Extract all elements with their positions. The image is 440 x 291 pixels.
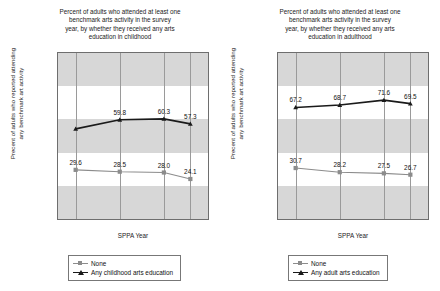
legend-item[interactable]: Any adult arts education (293, 268, 380, 277)
legend-item[interactable]: None (73, 259, 173, 268)
legend-label: Any childhood arts education (91, 269, 173, 276)
legend-triangle-icon (293, 268, 308, 277)
y-axis-title-line: Precent of adults who reported attending (229, 29, 237, 179)
legend: NoneAny adult arts education (288, 255, 388, 281)
title-line: year, by whether they received any arts (22, 25, 218, 33)
chart-panel-childhood: Percent of adults who attended at least … (0, 0, 220, 291)
data-label: 57.3 (184, 113, 196, 119)
series-line (76, 170, 191, 179)
data-label: 30.7 (289, 158, 301, 164)
chart-title: Percent of adults who attended at least … (242, 8, 438, 41)
data-label: 71.6 (378, 90, 390, 96)
chart-panel-adulthood: Percent of adults who attended at least … (220, 0, 440, 291)
title-line: benchmark arts activity in the survey (22, 16, 218, 24)
data-label: 59.8 (114, 109, 126, 115)
title-line: Percent of adults who attended at least … (22, 8, 218, 16)
data-label: 67.2 (289, 97, 301, 103)
title-line: education in childhood (22, 33, 218, 41)
figure-sheet: Percent of adults who attended at least … (0, 0, 440, 291)
data-point-marker (294, 166, 298, 170)
data-point-marker (188, 177, 192, 181)
data-point-marker (338, 170, 342, 174)
series-layer (58, 53, 208, 219)
legend-square-icon (293, 259, 308, 268)
data-label: 29.6 (69, 159, 81, 165)
title-line: education in adulthood (242, 33, 438, 41)
data-label: 26.7 (404, 164, 416, 170)
legend: NoneAny childhood arts education (68, 255, 181, 281)
legend-item[interactable]: None (293, 259, 380, 268)
title-line: benchmark arts activity in the survey (242, 16, 438, 24)
data-point-marker (118, 170, 122, 174)
chart-title: Percent of adults who attended at least … (22, 8, 218, 41)
y-axis-title: Precent of adults who reported attending… (9, 29, 24, 179)
data-label: 28.0 (158, 162, 170, 168)
legend-square-icon (73, 259, 88, 268)
data-point-marker (74, 168, 78, 172)
y-tick-mark (277, 219, 278, 220)
data-label: 68.7 (334, 95, 346, 101)
data-point-marker (382, 171, 386, 175)
title-line: year, by whether they received any arts (242, 25, 438, 33)
legend-label: None (311, 260, 326, 267)
y-axis-title-line: Precent of adults who reported attending (9, 29, 17, 179)
data-label: 27.5 (378, 163, 390, 169)
y-tick-mark (57, 219, 58, 220)
data-label: 28.5 (114, 161, 126, 167)
legend-label: Any adult arts education (311, 269, 380, 276)
series-line (296, 100, 411, 107)
data-label: 28.2 (334, 162, 346, 168)
x-axis-title: SPPA Year (277, 232, 429, 239)
y-axis-title-line: any benchmark art activity (17, 29, 25, 179)
title-line: Percent of adults who attended at least … (242, 8, 438, 16)
series-line (76, 119, 191, 129)
x-axis-title: SPPA Year (57, 232, 209, 239)
y-axis-title: Precent of adults who reported attending… (229, 29, 244, 179)
legend-label: None (91, 260, 106, 267)
plot-area: 19821992200220080%20%40%60%80%100%59.860… (57, 52, 209, 220)
legend-triangle-icon (73, 268, 88, 277)
plot-area: 19821992200220080%20%40%60%80%100%67.268… (277, 52, 429, 220)
series-line (296, 168, 411, 175)
data-point-marker (408, 173, 412, 177)
data-label: 24.1 (184, 169, 196, 175)
series-layer (278, 53, 428, 219)
data-label: 69.5 (404, 93, 416, 99)
data-point-marker (162, 170, 166, 174)
legend-item[interactable]: Any childhood arts education (73, 268, 173, 277)
y-axis-title-line: any benchmark art activity (237, 29, 245, 179)
data-label: 60.3 (158, 108, 170, 114)
